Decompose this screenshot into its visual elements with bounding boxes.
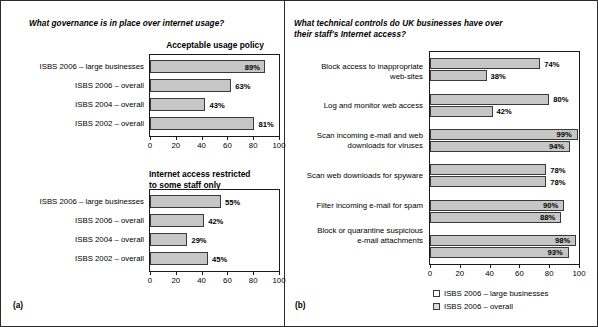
legend-swatch-overall [433,303,440,310]
figure-container: What governance is in place over interne… [0,0,598,327]
bar-b-0-0 [430,58,540,69]
bar-value-a2-1: 42% [208,218,223,226]
bar-a2-0 [150,195,221,208]
bar-value-b-2-0: 99% [557,131,572,139]
legend-label-overall: ISBS 2006 – overall [444,302,513,311]
axis-tick [253,137,254,140]
axis-tick-label: 40 [476,270,504,278]
axis-tick-label: 60 [213,277,241,285]
bar-b-1-1 [430,106,493,117]
cat-label-a1-0: ISBS 2006 – large businesses [19,62,144,72]
panel-letter-a: (a) [13,301,23,310]
cat-label-b-0: Block access to inappropriate web-sites [293,62,423,81]
plot-area-internet-access-restricted: 55% 42% 29% 45% [149,189,280,272]
axis-tick [430,265,431,268]
bar-a1-2 [150,98,205,111]
axis-tick [519,265,520,268]
bar-b-1-0 [430,94,549,105]
axis-tick-label: 20 [162,277,190,285]
axis-tick [227,137,228,140]
axis-tick [176,272,177,275]
legend-item-large-businesses: ISBS 2006 – large businesses [433,289,548,298]
bar-value-b-3-0: 78% [550,167,565,175]
cat-label-b-5: Block or quarantine suspicious e-mail at… [293,226,423,245]
cat-label-a1-1: ISBS 2006 – overall [19,81,144,91]
cat-label-a2-2: ISBS 2004 – overall [19,235,144,245]
axis-tick [490,265,491,268]
axis-tick-label: 20 [446,270,474,278]
plot-area-technical-controls: 74%38%80%42%99%94%78%78%90%88%98%93% [429,51,580,265]
axis-tick-label: 40 [188,277,216,285]
axis-tick [549,265,550,268]
axis-tick-label: 100 [565,270,593,278]
bar-a1-1 [150,79,231,92]
bar-value-b-4-1: 88% [540,214,555,222]
axis-tick-label: 20 [162,142,190,150]
bar-a1-3 [150,117,254,130]
axis-tick [579,265,580,268]
axis-tick [279,272,280,275]
axis-tick-label: 80 [239,277,267,285]
axis-tick [202,137,203,140]
legend-label-large-businesses: ISBS 2006 – large businesses [444,289,548,298]
bar-value-a1-3: 81% [258,121,273,129]
left-question: What governance is in place over interne… [29,18,279,29]
bar-value-a1-0: 89% [245,64,260,72]
axis-tick [202,272,203,275]
cat-label-b-2: Scan incoming e-mail and web downloads f… [293,131,423,150]
bar-b-0-1 [430,70,487,81]
bar-a2-2 [150,233,187,246]
bar-a2-3 [150,252,208,265]
axis-tick-label: 100 [265,277,293,285]
bar-value-b-1-0: 80% [553,96,568,104]
bar-value-a2-3: 45% [212,256,227,264]
axis-tick-label: 80 [535,270,563,278]
right-question: What technical controls do UK businesses… [294,18,534,40]
cat-label-b-4: Filter incoming e-mail for spam [293,201,423,211]
bar-value-b-5-1: 93% [548,249,563,257]
axis-tick [150,137,151,140]
axis-tick-label: 0 [416,270,444,278]
axis-tick [460,265,461,268]
bar-value-a2-2: 29% [191,237,206,245]
bar-value-a1-1: 63% [235,83,250,91]
axis-tick [150,272,151,275]
cat-label-a2-1: ISBS 2006 – overall [19,216,144,226]
bar-value-b-5-0: 98% [555,237,570,245]
cat-label-a2-0: ISBS 2006 – large businesses [19,197,144,207]
chart-title-acceptable-usage-policy: Acceptable usage policy [149,40,281,51]
bar-value-a1-2: 43% [209,102,224,110]
axis-tick-label: 60 [213,142,241,150]
bar-value-b-0-1: 38% [491,73,506,81]
axis-tick [227,272,228,275]
bar-value-b-1-1: 42% [497,108,512,116]
bar-a2-1 [150,214,204,227]
legend-swatch-large-businesses [433,290,440,297]
axis-tick-label: 40 [188,142,216,150]
axis-tick [176,137,177,140]
bar-value-b-3-1: 78% [550,179,565,187]
bar-value-b-2-1: 94% [549,143,564,151]
plot-area-acceptable-usage-policy: 89% 63% 43% 81% [149,54,280,137]
cat-label-b-1: Log and monitor web access [293,101,423,111]
bar-value-b-4-0: 90% [543,202,558,210]
bar-b-3-1 [430,176,546,187]
axis-tick [279,137,280,140]
bar-b-2-0 [430,129,578,140]
axis-tick-label: 80 [239,142,267,150]
cat-label-a1-3: ISBS 2002 – overall [19,119,144,129]
bar-value-b-0-0: 74% [544,61,559,69]
axis-tick-label: 0 [136,277,164,285]
cat-label-b-3: Scan web downloads for spyware [293,171,423,181]
cat-label-a2-3: ISBS 2002 – overall [19,254,144,264]
axis-tick-label: 60 [505,270,533,278]
axis-tick [253,272,254,275]
panel-letter-b: (b) [295,301,305,310]
bar-b-3-0 [430,164,546,175]
axis-tick-label: 0 [136,142,164,150]
bar-value-a2-0: 55% [225,199,240,207]
chart-title-internet-access-restricted: Internet access restricted to some staff… [149,169,281,190]
legend-item-overall: ISBS 2006 – overall [433,302,513,311]
axis-tick-label: 100 [265,142,293,150]
cat-label-a1-2: ISBS 2004 – overall [19,100,144,110]
